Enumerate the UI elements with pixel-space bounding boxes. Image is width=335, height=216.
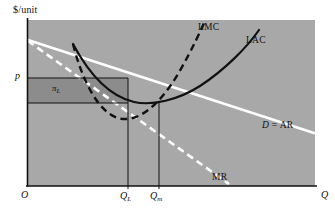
economics-diagram-figure: $/unit Q O p QL Qm LMC LAC D = AR MR πL	[0, 0, 335, 216]
lmc-curve-label: LMC	[198, 23, 220, 33]
lac-curve-label: LAC	[246, 36, 266, 46]
qm-tick-label: Qm	[150, 191, 162, 203]
limit-profit-region	[27, 78, 128, 103]
limit-profit-label: πL	[52, 84, 60, 95]
mr-curve-label: MR	[212, 173, 227, 183]
ql-tick-label: QL	[120, 191, 131, 203]
price-axis-label: p	[15, 71, 20, 81]
plot-canvas	[0, 0, 335, 216]
origin-label: O	[21, 190, 28, 200]
demand-curve-label: D = AR	[262, 121, 293, 131]
y-axis-label: $/unit	[13, 5, 38, 15]
ql-tick-label-sub: L	[127, 195, 131, 203]
limit-profit-label-sub: L	[57, 87, 61, 95]
qm-tick-label-sub: m	[157, 195, 162, 203]
x-axis-label: Q	[321, 190, 328, 200]
demand-curve-label-rest: = AR	[269, 120, 293, 130]
